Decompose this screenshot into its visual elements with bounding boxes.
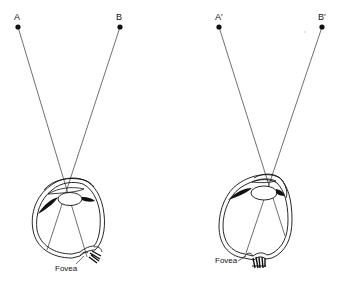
lens-right bbox=[251, 186, 277, 200]
label-a: A bbox=[14, 13, 20, 22]
ciliary-body-left bbox=[38, 197, 58, 214]
fovea-label-right: Fovea bbox=[215, 257, 237, 265]
point-b-prime bbox=[319, 24, 324, 29]
diagram-canvas bbox=[0, 0, 340, 281]
optic-nerve-right bbox=[252, 257, 266, 268]
ray-a-left bbox=[18, 27, 87, 257]
ray-a-prime bbox=[219, 27, 285, 236]
cornea-left bbox=[44, 178, 94, 190]
ciliary-body-right-left bbox=[82, 197, 95, 202]
label-b: B bbox=[116, 13, 122, 22]
ray-b-left bbox=[47, 27, 120, 250]
label-a-prime: A′ bbox=[215, 13, 223, 22]
fovea-leader-left bbox=[76, 256, 84, 264]
right-panel bbox=[219, 27, 322, 268]
left-panel bbox=[18, 27, 120, 264]
point-b bbox=[117, 24, 122, 29]
eye-diagram: A B A′ B′ Fovea Fovea bbox=[0, 0, 340, 281]
point-a-prime bbox=[216, 24, 221, 29]
speck-mark bbox=[304, 31, 306, 33]
label-b-prime: B′ bbox=[318, 13, 326, 22]
lens-left bbox=[58, 193, 82, 206]
point-a bbox=[15, 24, 20, 29]
fovea-label-left: Fovea bbox=[55, 265, 77, 273]
ray-b-prime bbox=[246, 27, 322, 253]
